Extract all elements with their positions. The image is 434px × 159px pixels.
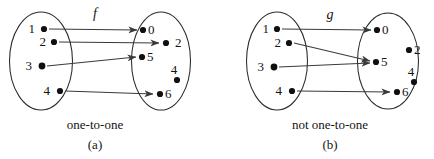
edge-3-to-5	[279, 63, 370, 67]
node-dot-a-domain-1	[41, 26, 47, 32]
panel-a-codomain-nodes: 0 2 5 4 6	[139, 22, 182, 101]
function-mapping-diagram: f 1 2 3 4 0 2 5 4	[0, 0, 434, 159]
panel-b-caption: not one-to-one	[292, 117, 368, 132]
panel-b-domain-nodes: 1 2 3 4	[258, 21, 296, 98]
panel-b: g 1 2 3 4 0 2 5 4	[247, 7, 421, 152]
edge-1-to-0	[49, 29, 137, 30]
edge-4-to-6	[65, 91, 153, 94]
edge-2-to-2	[59, 42, 159, 43]
edge-1-to-0	[282, 29, 371, 30]
node-dot-a-codomain-6	[157, 91, 163, 97]
node-dot-b-codomain-4	[411, 79, 417, 85]
panel-a-tag: (a)	[88, 137, 102, 152]
node-dot-b-domain-4	[289, 88, 295, 94]
node-label-a-codomain-4: 4	[171, 62, 178, 77]
edge-4-to-6	[297, 91, 390, 92]
node-dot-b-domain-1	[274, 26, 280, 32]
panel-a-edges	[47, 29, 159, 94]
node-label-a-domain-4: 4	[44, 83, 51, 98]
node-label-a-domain-2: 2	[40, 34, 47, 49]
node-label-a-codomain-2: 2	[175, 35, 182, 50]
node-label-b-codomain-0: 0	[382, 22, 389, 37]
node-dot-b-codomain-6	[394, 89, 400, 95]
node-label-b-domain-2: 2	[275, 35, 282, 50]
node-label-a-domain-3: 3	[26, 58, 33, 73]
node-dot-b-codomain-5	[373, 59, 379, 65]
node-label-b-codomain-5: 5	[381, 54, 388, 69]
node-label-b-codomain-4: 4	[408, 64, 415, 79]
node-dot-a-domain-3	[39, 63, 46, 70]
node-label-a-codomain-0: 0	[148, 22, 155, 37]
node-label-b-codomain-2: 2	[414, 42, 421, 57]
node-dot-a-codomain-4	[174, 77, 180, 83]
panel-b-function-label: g	[327, 7, 334, 22]
node-dot-a-codomain-0	[140, 27, 146, 33]
node-dot-b-domain-3	[271, 64, 278, 71]
node-label-b-domain-1: 1	[263, 21, 270, 36]
node-label-a-codomain-6: 6	[165, 86, 172, 101]
edge-3-to-5	[47, 57, 136, 66]
node-dot-b-domain-2	[286, 40, 292, 46]
node-dot-a-domain-2	[51, 39, 57, 45]
panel-a-caption: one-to-one	[67, 117, 124, 132]
figure-canvas: f 1 2 3 4 0 2 5 4	[0, 0, 434, 159]
panel-a-function-label: f	[93, 6, 99, 21]
panel-a: f 1 2 3 4 0 2 5 4	[10, 6, 191, 152]
node-dot-a-codomain-2	[163, 40, 169, 46]
node-label-a-codomain-5: 5	[147, 49, 154, 64]
panel-b-tag: (b)	[322, 137, 337, 152]
node-label-a-domain-1: 1	[29, 21, 36, 36]
node-dot-b-codomain-2	[406, 47, 412, 53]
node-label-b-codomain-6: 6	[402, 84, 409, 99]
node-label-b-domain-3: 3	[258, 59, 265, 74]
panel-a-domain-ellipse	[10, 12, 73, 110]
panel-a-domain-nodes: 1 2 3 4	[26, 21, 64, 98]
node-dot-a-domain-4	[57, 88, 63, 94]
node-dot-b-codomain-0	[374, 27, 380, 33]
node-dot-a-codomain-5	[139, 54, 145, 60]
node-label-b-domain-4: 4	[276, 83, 283, 98]
